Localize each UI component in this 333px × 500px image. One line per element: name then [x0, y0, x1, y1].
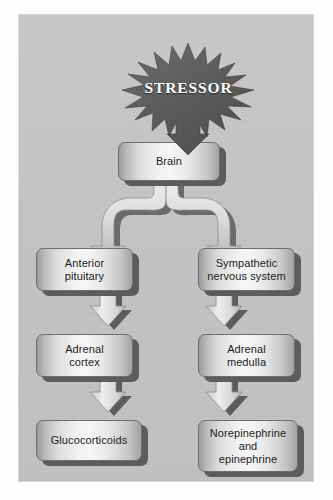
node-brain-label: Brain — [156, 155, 182, 168]
node-adrenal-medulla-label: Adrenal medulla — [227, 343, 266, 369]
node-adrenal-cortex[interactable]: Adrenal cortex — [36, 334, 133, 377]
diagram-panel: STRESSOR Brain Anterior pituitary Sympat… — [18, 14, 314, 482]
stressor-burst: STRESSOR — [121, 41, 256, 156]
figure-root: STRESSOR Brain Anterior pituitary Sympat… — [0, 0, 333, 500]
node-glucocorticoids-label: Glucocorticoids — [51, 434, 128, 447]
node-adrenal-cortex-label: Adrenal cortex — [65, 343, 104, 369]
node-anterior-pituitary[interactable]: Anterior pituitary — [36, 248, 133, 291]
starburst-icon — [121, 41, 256, 156]
node-sympathetic-nervous-system[interactable]: Sympathetic nervous system — [198, 248, 295, 291]
node-norepinephrine-and-epinephrine[interactable]: Norepinephrine and epinephrine — [198, 420, 298, 472]
node-anterior-pituitary-label: Anterior pituitary — [65, 257, 104, 283]
node-sympathetic-nervous-system-label: Sympathetic nervous system — [207, 257, 285, 283]
node-norepinephrine-and-epinephrine-label: Norepinephrine and epinephrine — [210, 427, 287, 466]
node-adrenal-medulla[interactable]: Adrenal medulla — [198, 334, 295, 377]
node-glucocorticoids[interactable]: Glucocorticoids — [36, 420, 142, 461]
